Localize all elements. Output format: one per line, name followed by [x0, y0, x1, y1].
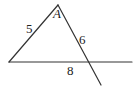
triangle-diagram: A 5 6 8: [0, 0, 138, 90]
side-bottom-label: 8: [67, 63, 74, 78]
side-left-segment: [9, 5, 58, 62]
vertex-a-label: A: [52, 6, 61, 21]
side-right-label: 6: [79, 32, 86, 47]
side-left-label: 5: [26, 21, 33, 36]
